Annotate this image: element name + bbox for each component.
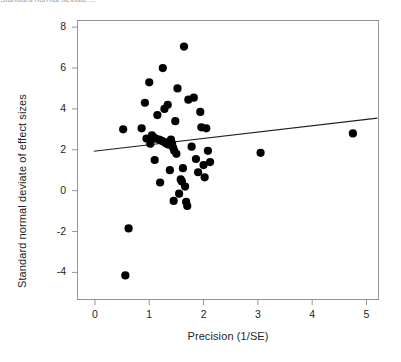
y-tick-label: 2 bbox=[44, 143, 66, 155]
y-tick-label: 6 bbox=[44, 61, 66, 73]
y-tick-label: 0 bbox=[44, 184, 66, 196]
funnel-plot-figure: Standard normal deviate ... Standard nor… bbox=[0, 0, 401, 362]
clipped-top-caption: Standard normal deviate ... bbox=[0, 0, 260, 4]
x-tick-label: 0 bbox=[84, 308, 106, 320]
x-tick-label: 1 bbox=[138, 308, 160, 320]
y-tick-label: 8 bbox=[44, 20, 66, 32]
y-axis-title: Standard normal deviate of effect sizes bbox=[16, 94, 28, 288]
plot-frame bbox=[77, 20, 379, 300]
x-tick-label: 4 bbox=[301, 308, 323, 320]
y-tick-label: 4 bbox=[44, 102, 66, 114]
x-tick-label: 5 bbox=[356, 308, 378, 320]
y-tick-label: -2 bbox=[44, 225, 66, 237]
x-tick-label: 3 bbox=[247, 308, 269, 320]
y-tick-label: -4 bbox=[44, 265, 66, 277]
x-axis-title: Precision (1/SE) bbox=[77, 330, 379, 342]
x-tick-label: 2 bbox=[193, 308, 215, 320]
